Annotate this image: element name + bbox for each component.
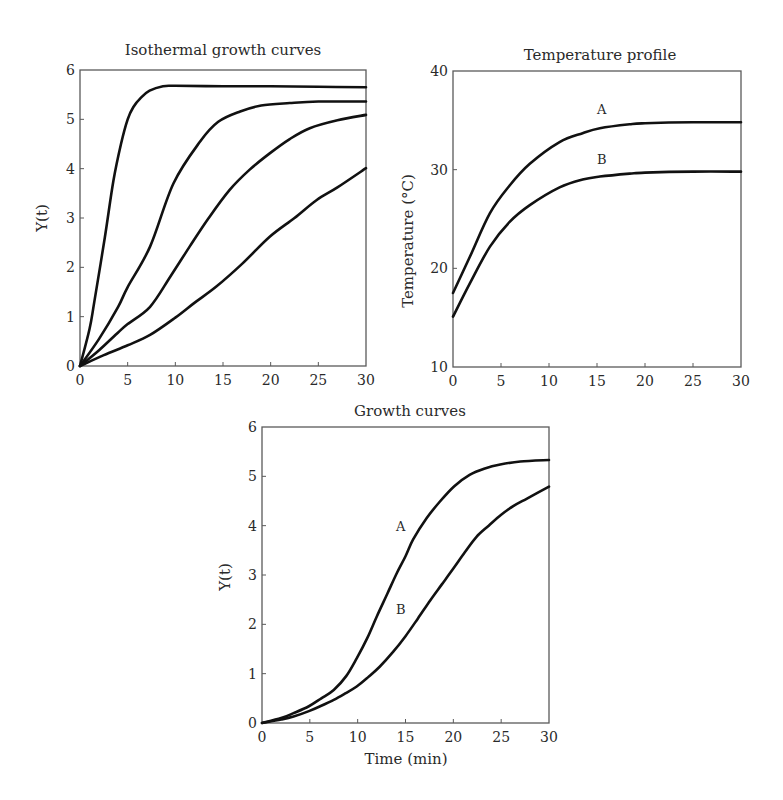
y-tick-label: 3 — [66, 210, 75, 226]
curve-curve-1 — [80, 86, 366, 366]
y-tick-label: 6 — [66, 62, 75, 78]
curve-b — [262, 487, 549, 723]
plot-frame — [262, 427, 549, 723]
axis-ticks: 0510152025300123456 — [248, 419, 558, 745]
x-tick-label: 0 — [449, 373, 458, 389]
x-tick-label: 10 — [540, 373, 558, 389]
x-tick-label: 5 — [305, 729, 314, 745]
x-tick-label: 20 — [444, 729, 462, 745]
curves — [262, 460, 549, 723]
isothermal-growth-chart: Isothermal growth curves Y(t) 0510152025… — [33, 41, 375, 388]
curve-label-b: B — [396, 602, 406, 617]
y-tick-label: 0 — [66, 358, 75, 374]
curve-curve-3 — [80, 115, 366, 366]
y-tick-label: 2 — [66, 259, 75, 275]
x-tick-label: 0 — [76, 372, 85, 388]
y-tick-label: 5 — [66, 111, 75, 127]
axis-ticks: 05101520253010203040 — [430, 63, 750, 389]
y-tick-label: 1 — [66, 309, 75, 325]
x-tick-label: 5 — [497, 373, 506, 389]
x-axis-label: Time (min) — [364, 750, 447, 768]
y-tick-label: 4 — [66, 161, 75, 177]
x-tick-label: 30 — [732, 373, 750, 389]
x-tick-label: 10 — [349, 729, 367, 745]
y-tick-label: 6 — [248, 419, 257, 435]
plot-frame — [80, 70, 366, 366]
y-tick-label: 40 — [430, 63, 448, 79]
x-tick-label: 15 — [588, 373, 606, 389]
chart-title: Growth curves — [354, 402, 466, 420]
growth-curves-chart: Growth curves Y(t) Time (min) 0510152025… — [216, 402, 558, 768]
curve-a — [262, 460, 549, 723]
y-tick-label: 10 — [430, 359, 448, 375]
x-tick-label: 20 — [636, 373, 654, 389]
y-tick-label: 5 — [248, 468, 257, 484]
x-tick-label: 25 — [684, 373, 702, 389]
x-tick-label: 5 — [123, 372, 132, 388]
y-tick-label: 30 — [430, 162, 448, 178]
curve-label-a: A — [596, 102, 607, 117]
curve-label-a: A — [395, 519, 406, 534]
curve-b — [453, 172, 741, 317]
y-axis-label: Y(t) — [216, 563, 234, 592]
chart-title: Isothermal growth curves — [125, 41, 322, 59]
figure: Isothermal growth curves Y(t) 0510152025… — [0, 0, 783, 800]
x-tick-label: 30 — [540, 729, 558, 745]
x-tick-label: 15 — [397, 729, 415, 745]
chart-title: Temperature profile — [524, 46, 677, 64]
y-tick-label: 3 — [248, 567, 257, 583]
y-tick-label: 20 — [430, 260, 448, 276]
curves — [80, 86, 366, 366]
y-tick-label: 0 — [248, 715, 257, 731]
x-tick-label: 0 — [258, 729, 267, 745]
y-axis-label: Y(t) — [33, 204, 51, 233]
y-tick-label: 2 — [248, 616, 257, 632]
y-tick-label: 4 — [248, 518, 257, 534]
annotations: AB — [596, 102, 607, 166]
x-tick-label: 30 — [357, 372, 375, 388]
x-tick-label: 10 — [166, 372, 184, 388]
y-tick-label: 1 — [248, 666, 257, 682]
x-tick-label: 25 — [309, 372, 327, 388]
x-tick-label: 15 — [214, 372, 232, 388]
x-tick-label: 20 — [262, 372, 280, 388]
y-axis-label: Temperature (°C) — [399, 174, 417, 308]
temperature-profile-chart: Temperature profile Temperature (°C) 051… — [399, 46, 750, 389]
curve-a — [453, 122, 741, 293]
curve-label-b: B — [597, 152, 607, 167]
x-tick-label: 25 — [492, 729, 510, 745]
